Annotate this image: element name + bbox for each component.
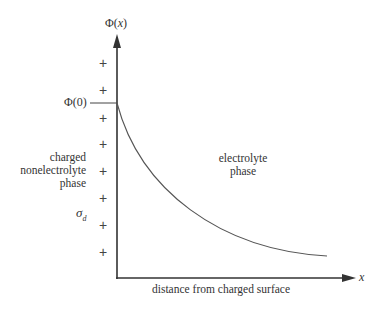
phi0-label: Φ(0): [64, 96, 87, 109]
plus-charge: +: [97, 111, 109, 125]
plus-charge: +: [97, 218, 109, 232]
y-axis-label: Φ(x): [105, 17, 127, 30]
left-region-label: charged nonelectrolyte phase: [10, 151, 86, 190]
plus-charge: +: [97, 83, 109, 97]
plus-charge: +: [97, 191, 109, 205]
y-axis-arrowhead: [113, 34, 121, 48]
right-region-label: electrolyte phase: [208, 152, 278, 178]
plus-charge: +: [97, 245, 109, 259]
x-axis-arrowhead: [342, 274, 356, 282]
sigma-d-label: σd: [76, 206, 86, 225]
potential-decay-curve: [117, 103, 327, 256]
x-axis-label: x: [359, 271, 364, 284]
x-axis-caption: distance from charged surface: [152, 283, 290, 296]
plus-charge: +: [97, 137, 109, 151]
plus-charge: +: [97, 56, 109, 70]
plus-charge: +: [97, 164, 109, 178]
